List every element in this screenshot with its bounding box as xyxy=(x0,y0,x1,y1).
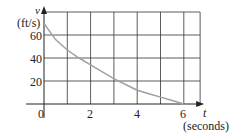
x-axis-variable: t xyxy=(203,107,206,119)
x-axis-unit: (seconds) xyxy=(183,120,229,132)
y-tick-60: 60 xyxy=(30,30,42,42)
y-axis-variable: v xyxy=(35,4,40,16)
grid-lines xyxy=(44,12,200,104)
origin-label: 0 xyxy=(38,108,44,120)
x-tick-4: 4 xyxy=(134,108,140,120)
y-tick-20: 20 xyxy=(30,76,42,88)
y-axis-unit: (ft/s) xyxy=(17,17,40,29)
y-tick-40: 40 xyxy=(30,53,42,65)
x-tick-2: 2 xyxy=(87,108,93,120)
axes xyxy=(26,6,204,118)
